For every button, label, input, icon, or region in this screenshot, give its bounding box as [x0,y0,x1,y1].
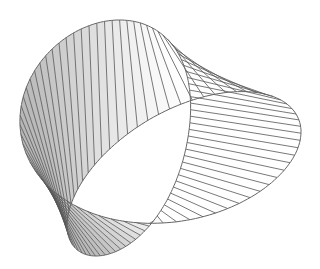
mobius-strip-svg [0,0,320,269]
mobius-strip-figure [0,0,320,269]
strip-shading [20,20,301,256]
